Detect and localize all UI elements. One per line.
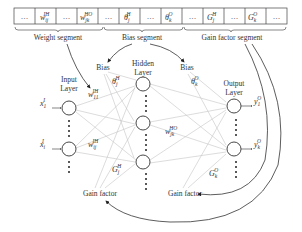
- ellipsis-dot: [68, 125, 70, 127]
- segment-cell-ellipsis: …: [63, 12, 71, 21]
- x1-symbol: x1I: [39, 97, 47, 109]
- bias-segment-label: Bias segment: [122, 33, 163, 42]
- bias-hidden-label: Bias: [96, 63, 109, 72]
- input-layer: Input Layer: [60, 75, 78, 173]
- w11-symbol: w11IH: [88, 88, 99, 100]
- hidden-node-n: [136, 155, 150, 169]
- input-node-i: [62, 142, 76, 156]
- ellipsis-dot: [68, 130, 70, 132]
- ann-encoding-diagram: … wijIH … wjkHO … θjH … θkO … GjH … GkO …: [0, 0, 302, 232]
- yk-symbol: ykO: [253, 138, 261, 150]
- segment-bar: … wijIH … wjkHO … θjH … θkO … GjH … GkO …: [14, 8, 287, 24]
- segment-cell-ellipsis: …: [147, 12, 155, 21]
- segment-braces: [15, 27, 286, 32]
- segment-cell-theta-k-o: θkO: [165, 11, 172, 23]
- segment-cell-ellipsis: …: [273, 12, 281, 21]
- output-node-k: [227, 142, 241, 156]
- bias-to-output-arrow: [150, 44, 184, 62]
- weight-segment-brace: [15, 27, 103, 32]
- hidden-layer-label-2: Layer: [134, 68, 152, 77]
- theta-k-symbol: θkO: [191, 75, 198, 87]
- theta-j-symbol: θjH: [112, 75, 120, 87]
- hidden-node-j: [136, 116, 150, 130]
- ellipsis-dot: [68, 135, 70, 137]
- hidden-node-1: [136, 77, 150, 91]
- output-layer: Output Layer: [224, 79, 246, 178]
- ellipsis-dot: [68, 166, 70, 168]
- output-node-1: [227, 99, 241, 113]
- bias-to-hidden-arrow: [108, 44, 132, 62]
- hidden-layer: Hidden Layer: [132, 59, 154, 190]
- bias-segment-brace: [104, 27, 183, 32]
- output-layer-label-2: Layer: [225, 88, 243, 97]
- y1-symbol: y1O: [253, 95, 261, 107]
- segment-cell-ellipsis: …: [231, 12, 239, 21]
- output-layer-label-1: Output: [224, 79, 246, 88]
- g-j-symbol: GjH: [112, 163, 122, 175]
- wjk-symbol: wjkHO: [165, 125, 177, 137]
- gain-factor-output-label: Gain factor: [168, 189, 202, 198]
- ellipsis-dot: [68, 171, 70, 173]
- ellipsis-dot: [68, 120, 70, 122]
- segment-cell-ellipsis: …: [21, 12, 29, 21]
- gain-segment-brace: [184, 27, 286, 32]
- network-connections: [76, 72, 226, 188]
- hidden-layer-label-1: Hidden: [132, 59, 154, 68]
- g-k-symbol: GkO: [209, 167, 218, 179]
- wij-symbol: wijIH: [88, 138, 99, 150]
- segment-cell-ellipsis: …: [189, 12, 197, 21]
- gain-segment-label: Gain factor segment: [202, 33, 264, 42]
- input-layer-label-2: Layer: [60, 84, 78, 93]
- bias-output-label: Bias: [180, 63, 193, 72]
- segment-cell-g-k-o: GkO: [248, 11, 257, 23]
- input-node-1: [62, 101, 76, 115]
- input-layer-label-1: Input: [61, 75, 78, 84]
- gain-factor-hidden-label: Gain factor: [83, 189, 117, 198]
- xi-symbol: xiI: [39, 138, 46, 150]
- ellipsis-dot: [68, 161, 70, 163]
- weight-segment-label: Weight segment: [34, 33, 83, 42]
- segment-cell-ellipsis: …: [105, 12, 113, 21]
